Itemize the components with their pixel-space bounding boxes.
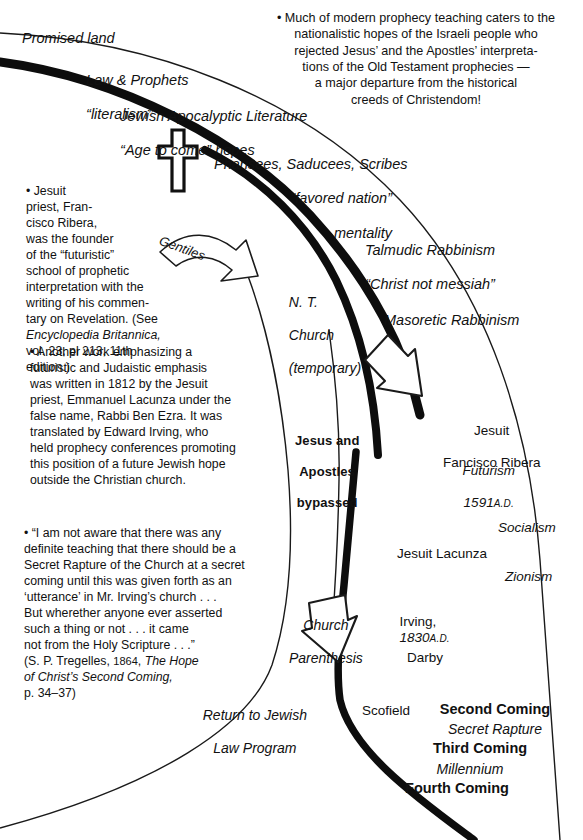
label-talmudic-rabbinism: Talmudic Rabbinism “Christ not messiah” [336, 225, 516, 293]
label-second-coming: Second Coming [420, 701, 570, 718]
label-futurism-name: Futurism [463, 463, 516, 478]
label-secret-rapture: Secret Rapture [420, 721, 570, 738]
label-bypass-line1: Jesus and [295, 433, 360, 448]
label-return-line2: Law Program [213, 740, 296, 756]
note-tregelles-cite-mid: , [138, 654, 145, 668]
note-top-right: • Much of modern prophecy teaching cater… [262, 10, 570, 108]
label-return-line1: Return to Jewish [203, 707, 307, 723]
label-nt-line2: Church [289, 327, 334, 343]
label-futurism-ad: A.D. [494, 498, 514, 509]
label-church-line2: Parenthesis [289, 650, 363, 666]
label-darby: Darby [407, 650, 443, 666]
label-talmudic-line2: “Christ not messiah” [365, 276, 495, 292]
note-tregelles-cite-year: 1864 [113, 655, 137, 667]
note-tregelles-quote: • “I am not aware that there was any def… [24, 526, 245, 652]
label-bypass-line2: Apostles [299, 464, 355, 479]
label-masoretic-rabbinism: Masoretic Rabbinism [384, 312, 519, 329]
note-ribera-source: Encyclopedia Britannica, [26, 328, 161, 342]
label-jesus-apostles-bypassed: Jesus and Apostles bypassed [281, 418, 366, 510]
label-nt-line3: (temporary) [289, 360, 361, 376]
label-jewish-line1: Jewish Apocalyptic Literature [120, 108, 307, 124]
note-tregelles-cite-pre: (S. P. Tregelles, [24, 654, 113, 668]
label-return-jewish-law: Return to Jewish Law Program [186, 690, 316, 756]
label-church-line1: Church [303, 617, 348, 633]
label-nt-church: N. T. Church (temporary) [281, 277, 361, 376]
label-futurism: Futurism 1591A.D. [430, 447, 540, 511]
label-irving-year: 1830 [400, 630, 430, 645]
label-jesuit-lacunza: Jesuit Lacunza [397, 546, 487, 562]
label-millennium: Millennium [395, 761, 545, 778]
label-talmudic-line1: Talmudic Rabbinism [365, 242, 495, 258]
label-irving: Irving, 1830A.D. [392, 598, 450, 646]
label-futurism-year: 1591 [464, 495, 494, 510]
label-bypass-line3: bypassed [297, 495, 358, 510]
label-promised-land: Promised land [22, 30, 115, 47]
note-tregelles: • “I am not aware that there was any def… [24, 510, 266, 702]
label-zionism: Zionism [505, 569, 552, 585]
label-jesuit-ribera-line1: Jesuit [474, 423, 509, 438]
note-lacunza: • Another work emphasizing a futuristic … [30, 345, 270, 489]
label-pharisees-line2: “favored nation” [290, 190, 392, 206]
label-socialism: Socialism [498, 520, 556, 536]
label-church-parenthesis: Church Parenthesis [272, 600, 372, 666]
label-law-line1: Law & Prophets [86, 72, 188, 88]
label-scofield: Scofield [362, 703, 410, 719]
label-nt-line1: N. T. [289, 294, 318, 310]
label-third-coming: Third Coming [405, 740, 555, 757]
note-tregelles-cite-page: p. 34–37) [24, 686, 76, 700]
label-irving-name: Irving, [400, 614, 437, 629]
label-irving-ad: A.D. [430, 633, 450, 644]
note-ribera-body: • Jesuit priest, Fran- cisco Ribera, was… [26, 184, 158, 326]
label-pharisees-line1: Pharisees, Saducees, Scribes [214, 156, 407, 172]
label-fourth-coming: Fourth Coming [382, 780, 532, 797]
